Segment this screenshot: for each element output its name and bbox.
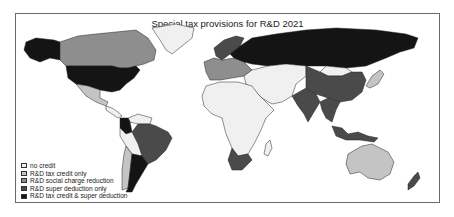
region-usa xyxy=(66,66,140,92)
legend-swatch xyxy=(21,186,27,191)
region-canada xyxy=(60,30,156,68)
legend-label: no credit xyxy=(30,162,55,170)
legend-swatch xyxy=(21,163,27,168)
region-greenland xyxy=(152,24,194,54)
region-southeast-asia xyxy=(320,98,340,122)
legend-item-credit-and-super-deduction: R&D tax credit & super deduction xyxy=(21,192,128,200)
region-venezuela-guianas xyxy=(128,114,152,124)
legend-label: R&D tax credit & super deduction xyxy=(30,192,128,200)
legend-swatch xyxy=(21,178,27,183)
legend-swatch xyxy=(21,194,27,199)
region-japan xyxy=(366,70,384,88)
region-madagascar xyxy=(264,140,272,156)
legend-label: R&D social charge reduction xyxy=(30,177,114,185)
legend-label: R&D super deduction only xyxy=(30,185,107,193)
legend-item-no-credit: no credit xyxy=(21,162,128,170)
legend-label: R&D tax credit only xyxy=(30,170,86,178)
legend-item-tax-credit-only: R&D tax credit only xyxy=(21,170,128,178)
map-legend: no credit R&D tax credit only R&D social… xyxy=(21,162,128,200)
region-indonesia xyxy=(332,126,378,142)
region-new-zealand xyxy=(408,172,420,190)
legend-item-social-charge-reduction: R&D social charge reduction xyxy=(21,177,128,185)
map-frame: Special tax provisions for R&D 2021 xyxy=(15,13,440,203)
region-russia xyxy=(230,28,418,68)
legend-item-super-deduction-only: R&D super deduction only xyxy=(21,185,128,193)
region-alaska xyxy=(24,38,60,62)
region-australia xyxy=(346,144,394,180)
legend-swatch xyxy=(21,171,27,176)
region-central-america xyxy=(106,106,122,118)
